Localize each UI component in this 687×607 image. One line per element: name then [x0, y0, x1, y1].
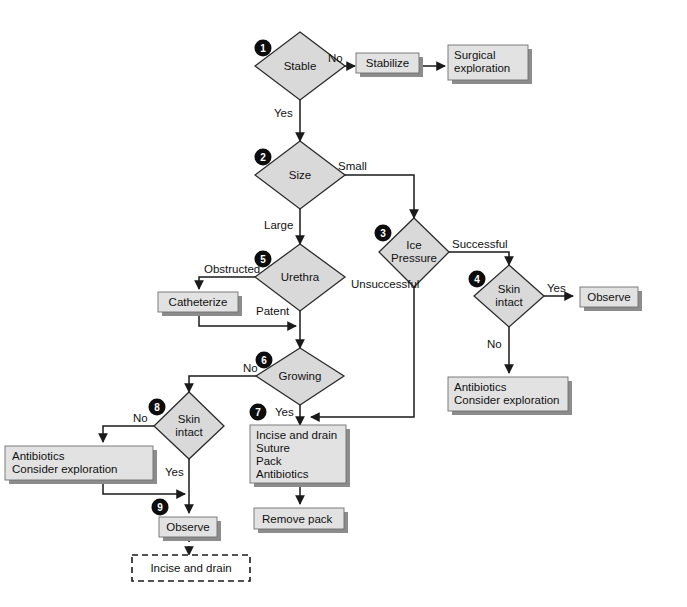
- node-skin-intact-8-line1: Skin: [178, 413, 200, 425]
- node-incise-line3: Pack: [256, 455, 282, 467]
- step-badge-3: 3: [375, 225, 392, 242]
- node-ice-pressure-line2: Pressure: [391, 252, 437, 264]
- edge-label-obstructed: Obstructed: [204, 263, 260, 275]
- step-badge-7: 7: [250, 404, 267, 421]
- step-badge-8-label: 8: [154, 402, 160, 413]
- step-badge-1: 1: [255, 40, 272, 57]
- edge-label-small: Small: [338, 160, 367, 172]
- step-badge-5-label: 5: [260, 254, 266, 265]
- node-incise-and-drain-dashed-label: Incise and drain: [150, 562, 231, 574]
- node-incise-suture-pack[interactable]: Incise and drain Suture Pack Antibiotics: [250, 425, 350, 487]
- edge-label-no-1: No: [328, 52, 343, 64]
- step-badge-6: 6: [256, 352, 273, 369]
- node-stabilize[interactable]: Stabilize: [356, 53, 423, 77]
- edge-label-yes-6: Yes: [275, 406, 294, 418]
- node-incise-and-drain-dashed[interactable]: Incise and drain: [132, 555, 250, 581]
- edge-label-unsuccessful: Unsuccessful: [351, 278, 419, 290]
- step-badge-4-label: 4: [474, 274, 480, 285]
- node-remove-pack-label: Remove pack: [262, 513, 333, 525]
- edge-ice-successful: [446, 252, 509, 265]
- node-antibiotics-left-line2: Consider exploration: [12, 463, 117, 475]
- step-badge-9: 9: [152, 499, 169, 516]
- node-size-label: Size: [289, 169, 311, 181]
- node-urethra-label: Urethra: [281, 271, 320, 283]
- node-incise-line1: Incise and drain: [256, 429, 337, 441]
- node-skin-intact-4-line2: intact: [495, 296, 523, 308]
- step-badge-7-label: 7: [255, 407, 261, 418]
- edge-label-yes-4: Yes: [547, 282, 566, 294]
- step-badge-2-label: 2: [260, 152, 266, 163]
- node-observe-right[interactable]: Observe: [580, 287, 642, 311]
- edge-label-no-4: No: [487, 338, 502, 350]
- step-badge-2: 2: [255, 149, 272, 166]
- node-surgical-exploration-line2: exploration: [454, 62, 510, 74]
- node-incise-line2: Suture: [256, 442, 290, 454]
- node-skin-intact-4-line1: Skin: [498, 283, 520, 295]
- step-badge-3-label: 3: [380, 228, 386, 239]
- edge-label-yes-1: Yes: [274, 107, 293, 119]
- node-antibiotics-right[interactable]: Antibiotics Consider exploration: [448, 377, 572, 415]
- node-antibiotics-right-line2: Consider exploration: [454, 394, 559, 406]
- node-antibiotics-right-line1: Antibiotics: [454, 381, 507, 393]
- node-observe-right-label: Observe: [587, 291, 630, 303]
- node-stabilize-label: Stabilize: [366, 57, 409, 69]
- edge-ice-unsuccessful: [311, 287, 414, 417]
- edge-label-large: Large: [264, 219, 293, 231]
- edge-label-yes-8: Yes: [165, 466, 184, 478]
- node-skin-intact-8-line2: intact: [175, 426, 203, 438]
- step-badge-9-label: 9: [157, 502, 163, 513]
- step-badge-6-label: 6: [261, 355, 267, 366]
- node-stable-label: Stable: [284, 60, 317, 72]
- edge-label-no-8: No: [133, 412, 148, 424]
- edge-label-no-6: No: [243, 362, 258, 374]
- node-observe-bottom-label: Observe: [166, 521, 209, 533]
- edge-skin8-no: [103, 426, 158, 442]
- flowchart-canvas: Stable 1 Stabilize Surgical exploration …: [0, 0, 687, 607]
- edge-label-patent: Patent: [256, 305, 290, 317]
- node-observe-bottom[interactable]: Observe: [159, 517, 221, 541]
- node-ice-pressure-line1: Ice: [406, 239, 421, 251]
- edge-label-successful: Successful: [452, 238, 508, 250]
- node-remove-pack[interactable]: Remove pack: [254, 508, 348, 533]
- step-badge-4: 4: [469, 271, 486, 288]
- node-growing-label: Growing: [279, 370, 322, 382]
- node-incise-line4: Antibiotics: [256, 468, 309, 480]
- node-surgical-exploration-line1: Surgical: [454, 49, 496, 61]
- node-catheterize[interactable]: Catheterize: [158, 292, 242, 316]
- edge-growing-no: [189, 376, 267, 392]
- node-antibiotics-left[interactable]: Antibiotics Consider exploration: [5, 446, 157, 484]
- node-skin-intact-8[interactable]: Skin intact: [154, 392, 224, 459]
- node-skin-intact-4[interactable]: Skin intact: [474, 265, 544, 327]
- step-badge-8: 8: [149, 399, 166, 416]
- node-catheterize-label: Catheterize: [169, 296, 228, 308]
- edge-size-small: [333, 175, 414, 218]
- node-surgical-exploration[interactable]: Surgical exploration: [448, 45, 532, 84]
- node-antibiotics-left-line1: Antibiotics: [12, 450, 65, 462]
- step-badge-1-label: 1: [260, 43, 266, 54]
